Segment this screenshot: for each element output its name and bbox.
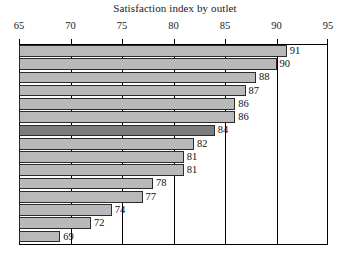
bar-row[interactable]: 81 (19, 151, 328, 163)
bar-value-label: 87 (249, 86, 260, 97)
x-axis-tick-labels: 65707580859095 (0, 20, 350, 34)
x-tick-label: 65 (14, 20, 25, 31)
bar-row[interactable]: 88 (19, 72, 328, 84)
bar-value-label: 88 (259, 72, 270, 83)
bar-highlighted[interactable] (19, 125, 215, 137)
bar-row[interactable]: 84 (19, 125, 328, 137)
bar-row[interactable]: 91 (19, 45, 328, 57)
bar-row[interactable]: 72 (19, 217, 328, 229)
bar-row[interactable]: 86 (19, 111, 328, 123)
bar[interactable] (19, 178, 153, 190)
bar-value-label: 72 (94, 218, 105, 229)
bar-row[interactable]: 78 (19, 178, 328, 190)
bar[interactable] (19, 231, 60, 243)
bar[interactable] (19, 191, 143, 203)
bar-chart: Satisfaction index by outlet 65707580859… (0, 0, 350, 261)
x-tick-label: 85 (220, 20, 231, 31)
bar-row[interactable]: 90 (19, 58, 328, 70)
bar-row[interactable]: 77 (19, 191, 328, 203)
bar[interactable] (19, 111, 235, 123)
bar-value-label: 69 (63, 232, 74, 243)
x-tick-label: 75 (117, 20, 128, 31)
bar-row[interactable]: 87 (19, 85, 328, 97)
bar[interactable] (19, 164, 184, 176)
x-tick-label: 80 (168, 20, 179, 31)
bar[interactable] (19, 72, 256, 84)
x-tick-label: 70 (65, 20, 76, 31)
bar-value-label: 81 (187, 165, 198, 176)
bar-row[interactable]: 86 (19, 98, 328, 110)
bar[interactable] (19, 204, 112, 216)
bar-row[interactable]: 81 (19, 164, 328, 176)
bars-layer: 919088878686848281817877747269 (19, 45, 328, 244)
bar-row[interactable]: 69 (19, 231, 328, 243)
bar-value-label: 90 (280, 59, 291, 70)
bar[interactable] (19, 151, 184, 163)
bar-value-label: 74 (115, 205, 126, 216)
bar-value-label: 86 (238, 99, 249, 110)
bar-value-label: 82 (197, 139, 208, 150)
x-tick-label: 90 (271, 20, 282, 31)
bar[interactable] (19, 98, 235, 110)
bar[interactable] (19, 45, 287, 57)
bar[interactable] (19, 217, 91, 229)
x-tick-label: 95 (323, 20, 334, 31)
chart-title: Satisfaction index by outlet (0, 2, 350, 14)
bar-value-label: 78 (156, 178, 167, 189)
bar-row[interactable]: 82 (19, 138, 328, 150)
bar-row[interactable]: 74 (19, 204, 328, 216)
bar-value-label: 84 (218, 125, 229, 136)
bar-value-label: 86 (238, 112, 249, 123)
bar[interactable] (19, 85, 246, 97)
bar[interactable] (19, 58, 277, 70)
bar[interactable] (19, 138, 194, 150)
bar-value-label: 91 (290, 46, 301, 57)
bar-value-label: 81 (187, 152, 198, 163)
bar-value-label: 77 (146, 192, 157, 203)
